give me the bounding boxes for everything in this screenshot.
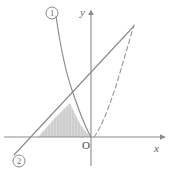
callout-1-label: 1 — [50, 8, 54, 18]
y-axis-label: y — [79, 6, 85, 18]
shaded-region — [38, 95, 91, 140]
callout-2-label: 2 — [17, 156, 21, 166]
graph-canvas: 1 2 x y O — [0, 0, 177, 176]
dashed-inverse-curve — [94, 25, 134, 137]
x-axis-label: x — [153, 142, 159, 154]
figure-container: 1 2 x y O — [0, 0, 177, 176]
origin-label: O — [82, 139, 90, 151]
callout-2-marker: 2 — [13, 155, 25, 167]
callout-1-marker: 1 — [46, 7, 58, 19]
